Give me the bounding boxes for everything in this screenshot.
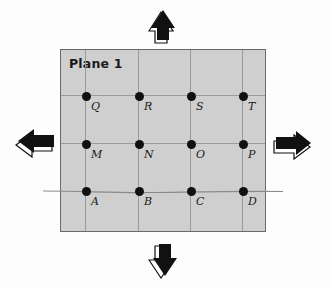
arrow-left-icon — [14, 128, 56, 158]
label-m: M — [91, 148, 102, 161]
label-p: P — [248, 148, 255, 161]
point-s — [187, 92, 196, 101]
label-c: C — [196, 195, 204, 208]
point-n — [135, 140, 144, 149]
arrow-up-icon — [148, 8, 178, 44]
arrow-right-icon — [272, 130, 312, 160]
plane-1: Plane 1 Q R S T M N O P A B — [60, 49, 266, 232]
point-a — [82, 187, 91, 196]
label-a: A — [91, 195, 99, 208]
gridline-horizontal — [61, 95, 265, 96]
label-q: Q — [91, 100, 100, 113]
point-b — [135, 187, 144, 196]
label-b: B — [144, 195, 152, 208]
gridline-horizontal — [61, 143, 265, 144]
diagram-stage: Plane 1 Q R S T M N O P A B — [0, 0, 332, 288]
label-o: O — [196, 148, 205, 161]
point-c — [187, 187, 196, 196]
point-p — [239, 140, 248, 149]
label-n: N — [144, 148, 154, 161]
point-d — [239, 187, 248, 196]
plane-title: Plane 1 — [69, 56, 123, 71]
label-d: D — [248, 195, 257, 208]
point-q — [82, 92, 91, 101]
label-s: S — [196, 100, 204, 113]
point-r — [135, 92, 144, 101]
point-t — [239, 92, 248, 101]
label-r: R — [144, 100, 152, 113]
arrow-down-icon — [148, 242, 178, 280]
point-o — [187, 140, 196, 149]
label-t: T — [248, 100, 255, 113]
point-m — [82, 140, 91, 149]
